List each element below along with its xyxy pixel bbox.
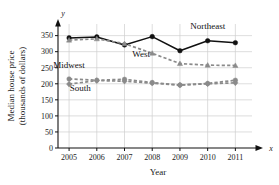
- data-point-midwest-2005: [67, 77, 72, 82]
- y-tick-label-50: 50: [45, 128, 53, 137]
- y-tick-label-250: 250: [41, 64, 53, 73]
- x-axis-title: Year: [150, 167, 167, 177]
- y-axis-variable-label: y: [60, 9, 65, 18]
- x-tick-label-2005: 2005: [61, 153, 77, 162]
- x-axis-ticks: 2005200620072008200920102011: [61, 148, 243, 162]
- x-tick-label-2009: 2009: [172, 153, 188, 162]
- y-tick-label-0: 0: [49, 144, 53, 153]
- y-tick-label-300: 300: [41, 47, 53, 56]
- data-point-northeast-2008: [150, 34, 155, 39]
- y-axis-title: Median house price (thousands of dollars…: [6, 47, 27, 126]
- y-axis-arrowhead: [55, 19, 61, 27]
- y-tick-label-200: 200: [41, 80, 53, 89]
- x-tick-label-2011: 2011: [228, 153, 244, 162]
- x-tick-label-2007: 2007: [117, 153, 133, 162]
- x-tick-label-2006: 2006: [89, 153, 105, 162]
- y-axis-title-line1: Median house price: [6, 51, 16, 122]
- y-tick-label-100: 100: [41, 112, 53, 121]
- series-label-midwest: Midwest: [53, 60, 85, 70]
- y-axis-ticks: 050100150200250300350: [41, 31, 58, 152]
- y-tick-label-150: 150: [41, 96, 53, 105]
- series-label-west: West: [132, 49, 150, 59]
- x-tick-label-2008: 2008: [144, 153, 160, 162]
- series-label-south: South: [70, 83, 92, 93]
- chart-container: y x 050100150200250300350 20052006200720…: [0, 0, 279, 185]
- y-tick-label-350: 350: [41, 31, 53, 40]
- data-point-northeast-2009: [178, 48, 183, 53]
- series-label-northeast: Northeast: [190, 21, 225, 31]
- data-point-south-2009: [177, 82, 182, 88]
- x-tick-label-2010: 2010: [200, 153, 216, 162]
- x-axis-arrowhead: [256, 145, 264, 151]
- y-axis-title-line2: (thousands of dollars): [17, 47, 27, 126]
- x-axis-variable-label: x: [268, 144, 273, 153]
- data-point-northeast-2010: [205, 38, 210, 43]
- data-point-northeast-2011: [233, 40, 238, 45]
- median-house-price-line-chart: y x 050100150200250300350 20052006200720…: [0, 0, 279, 185]
